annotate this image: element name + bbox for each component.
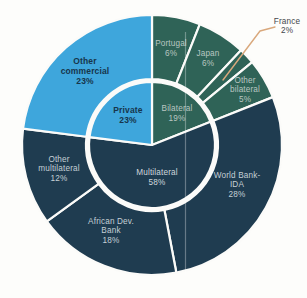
inner-pie <box>89 82 215 208</box>
label-other-commercial-line1: Other <box>73 56 97 66</box>
label-france-line2: 2% <box>281 26 293 35</box>
label-other-multilateral-line1: Other <box>48 155 69 164</box>
label-other-multilateral-line2: multilateral <box>38 164 79 173</box>
label-other-multilateral-line3: 12% <box>51 174 68 183</box>
sunburst-chart-figure: Bilateral19%Multilateral58%Private23%Por… <box>0 0 307 298</box>
label-bilateral-line2: 19% <box>169 114 186 123</box>
label-multilateral-line2: 58% <box>149 178 166 187</box>
label-japan-line1: Japan <box>196 49 219 58</box>
label-african-dev-bank-line2: Bank <box>101 226 121 235</box>
sunburst-chart-svg: Bilateral19%Multilateral58%Private23%Por… <box>0 0 307 298</box>
label-multilateral-line1: Multilateral <box>136 168 177 177</box>
label-france-line1: France <box>274 17 301 26</box>
label-african-dev-bank-line1: African Dev. <box>88 217 134 226</box>
label-portugal-line1: Portugal <box>155 39 187 48</box>
label-bilateral-line1: Bilateral <box>162 104 193 113</box>
label-world-bank-ida-line1: World Bank- <box>214 171 261 180</box>
label-other-bilateral-line3: 5% <box>239 95 251 104</box>
label-portugal-line2: 6% <box>165 49 177 58</box>
label-other-bilateral-line1: Other <box>234 76 255 85</box>
label-world-bank-ida-line3: 28% <box>229 190 246 199</box>
label-african-dev-bank-line3: 18% <box>103 236 120 245</box>
label-private-line2: 23% <box>119 115 137 125</box>
label-japan-line2: 6% <box>202 59 214 68</box>
label-private-line1: Private <box>113 105 143 115</box>
label-world-bank-ida-line2: IDA <box>230 180 244 189</box>
label-other-commercial-line2: commercial <box>61 66 110 76</box>
label-other-commercial-line3: 23% <box>76 76 94 86</box>
label-other-bilateral-line2: bilateral <box>230 85 260 94</box>
